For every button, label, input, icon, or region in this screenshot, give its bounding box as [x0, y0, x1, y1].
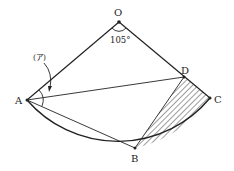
angle-O-arc [112, 28, 126, 31]
radius-OC [119, 22, 210, 98]
sector-diagram: O A B C D 105° (ア) [0, 0, 234, 171]
label-D: D [181, 65, 189, 76]
segment-AB [27, 100, 135, 148]
label-O: O [114, 7, 122, 18]
label-A: A [14, 95, 23, 106]
arrow-head-icon [48, 86, 52, 92]
point-B [134, 147, 137, 150]
label-B: B [131, 153, 138, 164]
label-C: C [214, 94, 222, 105]
angle-A-marker: (ア) [33, 53, 46, 62]
point-C [209, 97, 212, 100]
angle-O-value: 105° [110, 35, 130, 45]
point-A [26, 99, 29, 102]
point-O [117, 20, 121, 24]
